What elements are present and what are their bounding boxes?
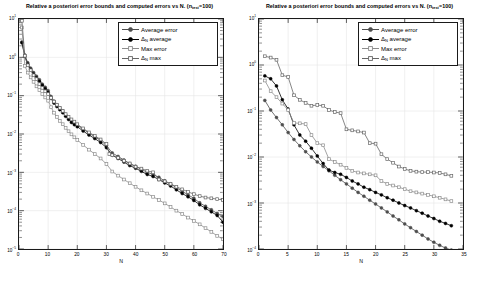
series-marker-right-3 (450, 174, 453, 177)
series-marker-right-2 (403, 188, 406, 191)
series-marker-left-3 (99, 138, 102, 141)
series-marker-left-2 (32, 80, 35, 83)
legend-item-right-1[interactable]: ΔN average (361, 35, 454, 44)
series-marker-right-2 (293, 122, 296, 125)
series-marker-right-2 (287, 109, 290, 112)
series-marker-left-3 (146, 169, 149, 172)
series-marker-left-3 (55, 103, 58, 106)
series-marker-right-0 (263, 99, 266, 102)
series-marker-left-2 (99, 157, 102, 160)
series-marker-right-3 (438, 172, 441, 175)
series-marker-left-1 (146, 173, 149, 176)
series-marker-right-1 (362, 186, 365, 189)
series-marker-right-1 (409, 206, 412, 209)
legend-item-left-0[interactable]: Average error (121, 25, 214, 34)
ytick-label-right-3: 10−2 (240, 155, 256, 160)
legend-item-right-3[interactable]: ΔN max (361, 54, 454, 63)
legend-item-left-1[interactable]: ΔN average (121, 35, 214, 44)
series-marker-right-3 (403, 168, 406, 171)
series-marker-right-3 (432, 171, 435, 174)
xtick-label-left-7: 70 (221, 252, 226, 257)
ytick-label-right-2: 10−1 (240, 108, 256, 113)
series-marker-right-3 (328, 109, 331, 112)
series-marker-right-2 (322, 144, 325, 147)
series-marker-right-1 (392, 199, 395, 202)
series-marker-left-3 (35, 78, 38, 81)
series-marker-left-3 (93, 134, 96, 137)
series-marker-right-0 (310, 156, 313, 159)
series-marker-left-2 (123, 178, 126, 181)
series-marker-left-2 (38, 89, 41, 92)
legend-item-right-0[interactable]: Average error (361, 25, 454, 34)
ytick-label-left-2: 10−1 (0, 93, 16, 98)
series-marker-right-1 (281, 98, 284, 101)
series-marker-left-3 (123, 159, 126, 162)
legend-label-left-0: Average error (141, 27, 178, 33)
series-marker-left-3 (32, 74, 35, 77)
series-marker-left-1 (175, 188, 178, 191)
series-marker-left-3 (41, 86, 44, 89)
series-marker-right-3 (322, 104, 325, 107)
series-marker-right-0 (362, 195, 365, 198)
panel-right: Relative a posteriori error bounds and c… (240, 0, 479, 284)
ytick-label-right-4: 10−3 (240, 201, 256, 206)
series-marker-left-3 (181, 188, 184, 191)
series-marker-right-0 (298, 144, 301, 147)
series-marker-left-1 (99, 141, 102, 144)
series-marker-right-1 (333, 171, 336, 174)
xtick-label-right-1: 5 (286, 252, 289, 257)
series-marker-right-2 (298, 122, 301, 125)
series-marker-right-0 (269, 109, 272, 112)
series-marker-right-3 (339, 112, 342, 115)
series-marker-left-2 (146, 192, 149, 195)
series-marker-left-3 (76, 123, 79, 126)
series-marker-right-0 (403, 222, 406, 225)
series-marker-right-0 (397, 218, 400, 221)
series-marker-right-1 (403, 204, 406, 207)
series-marker-right-2 (415, 191, 418, 194)
xtick-label-right-4: 20 (373, 252, 378, 257)
series-marker-left-3 (169, 182, 172, 185)
series-marker-right-3 (275, 58, 278, 61)
series-marker-right-2 (263, 79, 266, 82)
legend-item-right-2[interactable]: Max error (361, 44, 454, 53)
series-marker-right-2 (427, 194, 430, 197)
series-marker-right-2 (345, 166, 348, 169)
plot-title-right: Relative a posteriori error bounds and c… (266, 3, 453, 10)
series-marker-right-3 (386, 158, 389, 161)
series-marker-left-1 (198, 203, 201, 206)
series-marker-right-3 (421, 171, 424, 174)
legend-right: Average errorΔN averageMax errorΔN max (358, 22, 458, 66)
xtick-label-left-4: 40 (133, 252, 138, 257)
series-marker-left-3 (64, 113, 67, 116)
series-marker-right-0 (304, 150, 307, 153)
series-marker-right-2 (310, 134, 313, 137)
series-marker-left-2 (187, 216, 190, 219)
series-marker-right-2 (397, 186, 400, 189)
series-marker-left-2 (117, 174, 120, 177)
series-marker-right-1 (368, 188, 371, 191)
series-marker-right-0 (386, 210, 389, 213)
series-marker-right-0 (368, 199, 371, 202)
ytick-label-left-0: 101 (0, 16, 16, 21)
series-marker-left-1 (152, 175, 155, 178)
legend-item-left-2[interactable]: Max error (121, 44, 214, 53)
xtick-label-right-0: 0 (257, 252, 260, 257)
series-marker-right-1 (316, 155, 319, 158)
legend-label-right-3: ΔN max (381, 55, 401, 62)
series-marker-right-1 (415, 209, 418, 212)
legend-marker-square-open (121, 54, 140, 63)
series-marker-left-2 (82, 143, 85, 146)
series-marker-right-2 (421, 192, 424, 195)
series-marker-left-3 (67, 115, 70, 118)
series-marker-left-3 (117, 156, 120, 159)
series-marker-left-2 (58, 119, 61, 122)
legend-item-left-3[interactable]: ΔN max (121, 54, 214, 63)
series-marker-right-0 (444, 247, 447, 249)
series-marker-left-3 (50, 96, 53, 99)
series-marker-right-0 (275, 116, 278, 119)
series-marker-right-0 (316, 160, 319, 163)
series-marker-right-0 (339, 178, 342, 181)
legend-label-left-1: ΔN average (141, 36, 171, 43)
series-marker-right-0 (421, 234, 424, 237)
